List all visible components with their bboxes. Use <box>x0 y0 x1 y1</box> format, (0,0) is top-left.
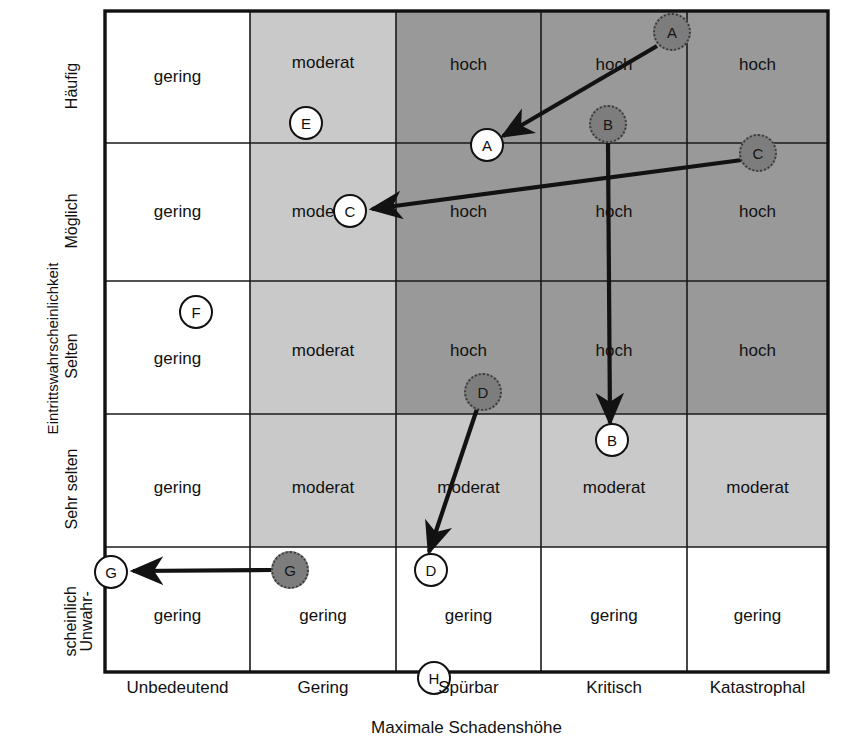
marker-label: D <box>426 563 437 578</box>
arrow-d <box>429 409 477 552</box>
arrow-b <box>608 143 610 423</box>
marker-e[interactable]: E <box>289 106 323 140</box>
marker-label: C <box>753 146 764 161</box>
axis-frame <box>105 11 828 672</box>
x-tick-label-katastrophal: Katastrophal <box>687 678 828 698</box>
marker-label: B <box>603 117 613 132</box>
marker-c-target[interactable]: C <box>333 194 367 228</box>
marker-b-target[interactable]: B <box>595 423 629 457</box>
marker-g-current[interactable]: G <box>271 551 309 589</box>
marker-label: A <box>667 25 677 40</box>
marker-label: C <box>345 204 356 219</box>
risk-matrix-diagram: Eintrittswahrscheinlichkeit Häufig Mögli… <box>0 0 848 751</box>
marker-c-current[interactable]: C <box>739 134 777 172</box>
marker-label: F <box>191 305 200 320</box>
marker-b-current[interactable]: B <box>589 105 627 143</box>
migration-arrows <box>133 46 742 571</box>
marker-label: B <box>607 433 617 448</box>
marker-label: G <box>105 565 117 580</box>
arrow-a <box>503 46 657 136</box>
x-axis-title: Maximale Schadenshöhe <box>105 718 828 738</box>
marker-label: D <box>478 385 489 400</box>
marker-d-target[interactable]: D <box>414 553 448 587</box>
marker-a-target[interactable]: A <box>470 128 504 162</box>
x-tick-label-gering: Gering <box>250 678 396 698</box>
arrow-g <box>133 570 272 571</box>
marker-label: G <box>284 563 296 578</box>
x-tick-label-kritisch: Kritisch <box>541 678 687 698</box>
marker-a-current[interactable]: A <box>653 13 691 51</box>
marker-label: E <box>301 116 311 131</box>
marker-label: A <box>482 138 492 153</box>
grid-lines <box>105 11 828 672</box>
marker-d-current[interactable]: D <box>464 373 502 411</box>
x-tick-label-unbedeutend: Unbedeutend <box>105 678 250 698</box>
marker-g-target[interactable]: G <box>94 555 128 589</box>
marker-f[interactable]: F <box>179 295 213 329</box>
grid-and-arrows-layer <box>0 0 848 751</box>
x-tick-label-spuerbar: Spürbar <box>396 678 541 698</box>
